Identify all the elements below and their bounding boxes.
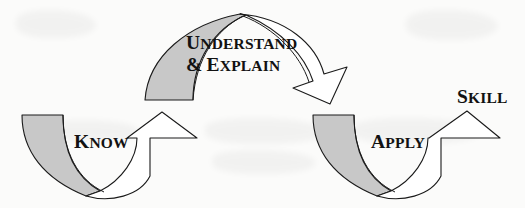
stage-label-understand-explain: Understand & Explain <box>186 32 297 75</box>
understand-rest: nderstand <box>200 35 297 52</box>
skill-rest: kill <box>468 89 508 106</box>
know-rest: now <box>89 134 128 151</box>
know-cap: K <box>74 131 89 152</box>
understand-line1: Understand <box>186 35 297 52</box>
diagram-canvas: Know Understand & Explain Apply Skill <box>0 0 525 208</box>
apply-arrow-gray-band <box>313 115 391 196</box>
stage-label-apply: Apply <box>371 131 425 152</box>
stage-label-know: Know <box>74 131 129 152</box>
explain-ampersand: & <box>186 54 202 75</box>
know-arrow-gray-band <box>22 115 100 196</box>
apply-arrow-white-band <box>377 111 500 199</box>
know-arrow <box>22 112 197 199</box>
apply-cap: A <box>371 131 385 152</box>
understand-cap: U <box>186 32 200 53</box>
skill-cap: S <box>457 86 468 107</box>
understand-line2: & Explain <box>186 54 297 75</box>
explain-cap: E <box>207 54 220 75</box>
apply-rest: pply <box>385 134 425 151</box>
stage-label-skill: Skill <box>457 86 508 107</box>
apply-arrow <box>313 111 500 199</box>
know-arrow-white-band <box>86 112 197 199</box>
explain-rest: xplain <box>220 57 281 74</box>
